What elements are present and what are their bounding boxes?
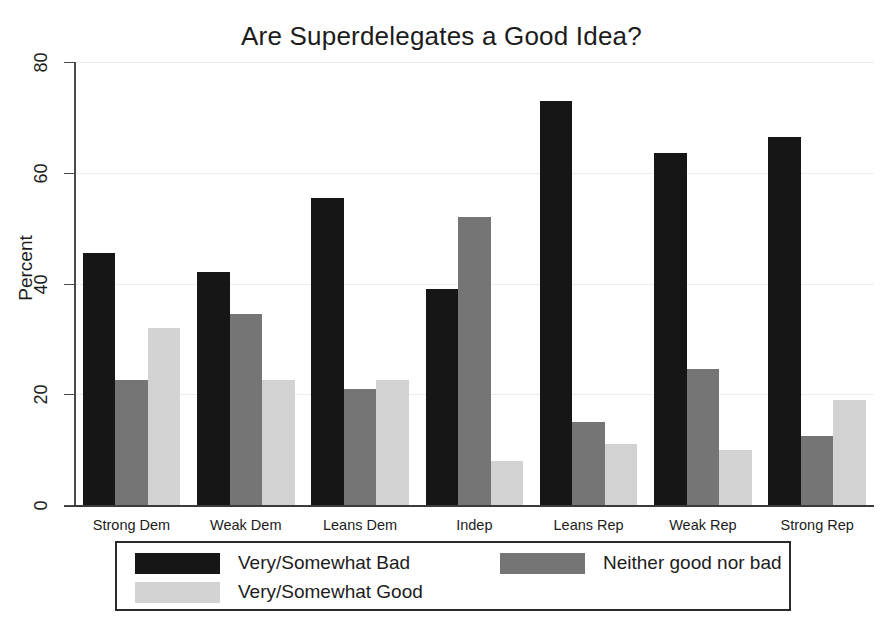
bar [230, 314, 263, 505]
legend-entry: Very/Somewhat Good [135, 581, 423, 603]
legend-label: Very/Somewhat Good [238, 581, 423, 603]
y-axis-tick [64, 394, 74, 395]
bar [426, 289, 459, 505]
y-axis-tick [64, 62, 74, 63]
legend-swatch [135, 582, 220, 603]
bar [83, 253, 116, 505]
y-axis-tick-label: 40 [31, 267, 52, 301]
bar [833, 400, 866, 505]
x-axis-line [64, 505, 874, 507]
bar [654, 153, 687, 505]
chart-legend: Very/Somewhat BadNeither good nor badVer… [115, 541, 791, 611]
bar [719, 450, 752, 505]
y-axis-tick-label: 20 [31, 378, 52, 412]
bar [687, 369, 720, 505]
bar-chart-figure: Are Superdelegates a Good Idea? Percent … [0, 0, 883, 629]
bar [311, 198, 344, 505]
bar [491, 461, 524, 505]
y-axis-tick [64, 505, 74, 506]
bar [376, 380, 409, 505]
bar-group [654, 62, 752, 505]
bar [458, 217, 491, 505]
y-axis-tick-label: 80 [31, 46, 52, 80]
bar [540, 101, 573, 505]
y-axis-line [74, 62, 76, 505]
legend-swatch [135, 553, 220, 574]
bar [262, 380, 295, 505]
bar-group [768, 62, 866, 505]
bar-group [83, 62, 181, 505]
bar [148, 328, 181, 505]
legend-entry: Very/Somewhat Bad [135, 552, 410, 574]
legend-label: Neither good nor bad [603, 552, 782, 574]
bar [605, 444, 638, 505]
bar [801, 436, 834, 505]
bar-group [426, 62, 524, 505]
bar [197, 272, 230, 505]
x-axis-category-label: Strong Rep [738, 517, 883, 533]
bar-group [197, 62, 295, 505]
y-axis-tick-label: 60 [31, 156, 52, 190]
legend-swatch [500, 553, 585, 574]
bar [572, 422, 605, 505]
y-axis-tick [64, 173, 74, 174]
bar [115, 380, 148, 505]
bar [768, 137, 801, 505]
y-axis-tick [64, 284, 74, 285]
legend-label: Very/Somewhat Bad [238, 552, 410, 574]
bar-group [311, 62, 409, 505]
legend-entry: Neither good nor bad [500, 552, 782, 574]
bar-group [540, 62, 638, 505]
bar [344, 389, 377, 505]
plot-area: 020406080 Strong DemWeak DemLeans DemInd… [74, 62, 874, 505]
chart-title: Are Superdelegates a Good Idea? [0, 21, 883, 52]
y-axis-tick-label: 0 [31, 489, 52, 523]
